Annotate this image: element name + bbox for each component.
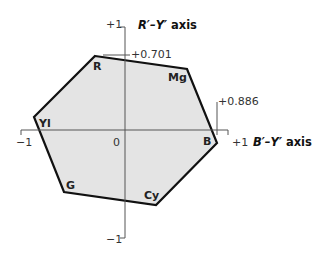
horizontal-axis-title: B′–Y′ axis bbox=[253, 135, 312, 149]
b-max-label: +0.886 bbox=[218, 95, 259, 108]
origin-label: 0 bbox=[113, 136, 120, 149]
vertical-bottom-label: −1 bbox=[106, 233, 122, 246]
vertex-label-cy: Cy bbox=[144, 189, 159, 202]
vertical-axis-title: R′–Y′ axis bbox=[138, 18, 197, 32]
horizontal-right-label: +1 bbox=[232, 136, 248, 149]
horizontal-left-label: −1 bbox=[16, 136, 32, 149]
vertical-top-label: +1 bbox=[106, 18, 122, 31]
vertex-label-mg: Mg bbox=[168, 71, 187, 84]
vertex-label-b: B bbox=[203, 135, 211, 148]
vertex-label-yl: Yl bbox=[38, 117, 51, 130]
vertex-label-r: R bbox=[93, 60, 102, 73]
vertex-label-g: G bbox=[66, 179, 75, 192]
r-max-label: +0.701 bbox=[131, 48, 172, 61]
color-hexagon-diagram: +1 −1 −1 +1 0 +0.701 +0.886 R′–Y′ axis B… bbox=[0, 0, 323, 254]
